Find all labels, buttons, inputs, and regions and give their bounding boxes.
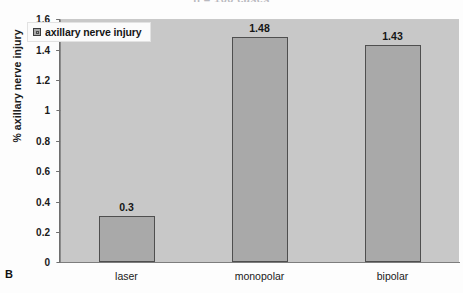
legend-label: axillary nerve injury	[45, 26, 142, 38]
y-tick-mark	[56, 202, 60, 203]
y-tick-label: 1.4	[36, 45, 50, 56]
y-axis-title: % axillary nerve injury	[11, 11, 23, 161]
y-tick-mark	[56, 50, 60, 51]
y-tick: 0.6	[36, 162, 60, 180]
y-tick-label: 1.2	[36, 75, 50, 86]
legend: axillary nerve injury	[27, 22, 151, 42]
bar-monopolar	[232, 37, 288, 262]
y-tick-mark	[56, 80, 60, 81]
y-tick: 0	[44, 253, 60, 271]
y-tick-mark	[56, 232, 60, 233]
y-tick: 0.4	[36, 192, 60, 210]
y-tick: 1.2	[36, 71, 60, 89]
y-tick-mark	[56, 141, 60, 142]
bar-laser	[99, 216, 155, 262]
y-tick-label: 0.8	[36, 136, 50, 147]
bar-value-label: 1.48	[210, 22, 310, 34]
square-swatch-icon	[33, 28, 41, 36]
x-label-laser: laser	[62, 270, 192, 282]
figure-panel-b: n = 100 cases % axillary nerve injury 00…	[0, 0, 463, 293]
y-tick: 0.8	[36, 132, 60, 150]
bar-value-label: 0.3	[77, 201, 177, 213]
y-tick-label: 0.2	[36, 227, 50, 238]
y-tick-label: 0	[44, 257, 50, 268]
x-label-monopolar: monopolar	[195, 270, 325, 282]
y-tick-mark	[56, 19, 60, 20]
x-axis-line	[60, 262, 460, 263]
y-tick-mark	[56, 171, 60, 172]
y-tick: 1.4	[36, 40, 60, 58]
chart-title: n = 100 cases	[0, 0, 463, 2]
y-tick: 0.2	[36, 223, 60, 241]
y-tick-mark	[56, 262, 60, 263]
bar-value-label: 1.43	[343, 30, 443, 42]
y-tick-label: 0.4	[36, 197, 50, 208]
panel-letter: B	[5, 268, 13, 280]
y-tick-mark	[56, 110, 60, 111]
bar-bipolar	[365, 45, 421, 262]
y-tick-label: 1	[44, 105, 50, 116]
x-label-bipolar: bipolar	[328, 270, 458, 282]
y-tick-label: 0.6	[36, 166, 50, 177]
y-tick: 1	[44, 101, 60, 119]
